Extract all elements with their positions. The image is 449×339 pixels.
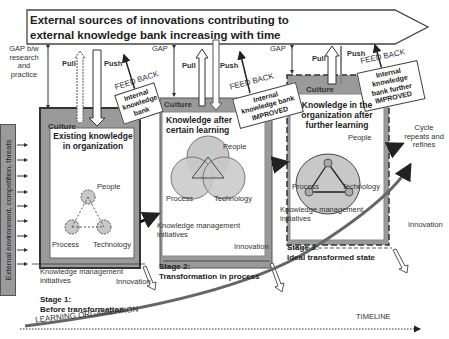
stage2-km: Knowledge management initiatives (157, 222, 267, 239)
push-label-1: Push (104, 60, 122, 69)
banner-line1: External sources of innovations contribu… (30, 13, 289, 28)
stage1-process: Process (52, 241, 79, 250)
stage3-label: Stage 3: Ideal transformed state (287, 243, 375, 263)
stage2-number: Stage 2: (159, 262, 259, 272)
stage3-km: Knowledge management initiatives (280, 206, 380, 223)
timeline-label: TIMELINE (356, 313, 391, 322)
stage2-technology: Technology (214, 195, 252, 204)
banner-text: External sources of innovations contribu… (30, 13, 289, 43)
diagram-canvas (0, 0, 449, 339)
stage1-technology: Technology (93, 241, 131, 250)
gap-label-2: GAP (152, 45, 168, 54)
stage2-people: People (223, 143, 246, 152)
pull-label-2: Pull (182, 62, 196, 71)
stage1-culture: Culture (48, 122, 76, 131)
stage3-culture: Culture (306, 85, 334, 94)
stage3-process: Process (292, 183, 319, 192)
stage2-label: Stage 2: Transformation in process (159, 262, 259, 282)
stage3-title: Knowledge in the organization after furt… (291, 100, 383, 131)
stage2-culture: Culture (164, 100, 192, 109)
gap-label-1: GAP b/w research and practice (4, 45, 44, 80)
gap-label-3: GAP (270, 45, 286, 54)
stage3-people: People (348, 134, 371, 143)
stage3-technology: Technology (342, 183, 380, 192)
cycle-label: Cycle repeats and refines (404, 124, 444, 150)
stage2-desc: Transformation in process (159, 272, 259, 282)
push-label-2: Push (220, 62, 238, 71)
banner-line2: external knowledge bank increasing with … (30, 28, 289, 43)
stage2-title: Knowledge after certain learning (166, 115, 256, 135)
external-environment-label: External environment, competition, threa… (0, 124, 16, 296)
pull-label-1: Pull (62, 60, 76, 69)
stage1-number: Stage 1: (40, 295, 124, 305)
stage3-desc: Ideal transformed state (287, 253, 375, 263)
stage1-innovation: Innovation (116, 278, 151, 287)
stage1-people: People (97, 183, 120, 192)
pull-label-3: Pull (312, 55, 326, 64)
stage3-number: Stage 3: (287, 243, 375, 253)
side-label-text: External environment, competition, threa… (4, 140, 13, 281)
external-pressure-arrows (17, 145, 27, 264)
stage1-title: Existing knowledge in organization (52, 131, 134, 151)
stage3-innovation: Innovation (408, 221, 443, 230)
stage2-innovation: Innovation (234, 243, 269, 252)
stage2-process: Process (166, 195, 193, 204)
